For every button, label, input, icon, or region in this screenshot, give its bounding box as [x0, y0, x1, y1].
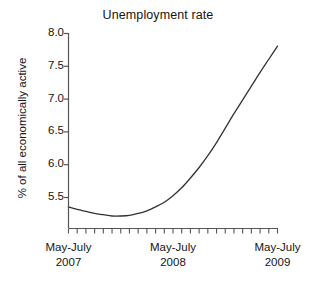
x-axis-tick-label: May-July2008	[131, 240, 215, 269]
unemployment-rate-chart: Unemployment rate % of all economically …	[0, 0, 316, 289]
data-series-line	[69, 46, 278, 216]
x-axis-tick-label: May-July2007	[27, 240, 111, 269]
x-axis-tick-label-year: 2007	[27, 255, 111, 270]
y-axis-ticks	[64, 34, 69, 198]
x-axis-tick-label-year: 2009	[236, 255, 317, 270]
x-axis-tick-label-period: May-July	[131, 240, 215, 255]
x-axis-tick-label-period: May-July	[236, 240, 317, 255]
x-axis-ticks	[69, 229, 278, 234]
x-axis-tick-label: May-July2009	[236, 240, 317, 269]
axes	[64, 33, 278, 234]
x-axis-tick-label-year: 2008	[131, 255, 215, 270]
x-axis-tick-label-period: May-July	[27, 240, 111, 255]
